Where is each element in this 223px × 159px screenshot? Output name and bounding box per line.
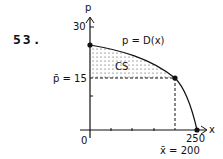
x-bar-label: x̄ = 200 [160, 146, 200, 156]
cs-label: CS [115, 62, 128, 72]
x-tick-250: 250 [186, 134, 205, 144]
x-intercept-point [194, 127, 199, 132]
curve-label: p = D(x) [122, 36, 165, 46]
intercept-point [87, 42, 92, 47]
y-tick-30: 30 [73, 22, 86, 32]
origin-label: 0 [81, 136, 87, 146]
consumer-surplus-region [90, 45, 175, 78]
x-axis-label: x [209, 125, 215, 135]
equilibrium-point [172, 75, 177, 80]
p-bar-label: p̄ = 15 [53, 74, 87, 84]
y-axis-label: p [85, 3, 91, 13]
